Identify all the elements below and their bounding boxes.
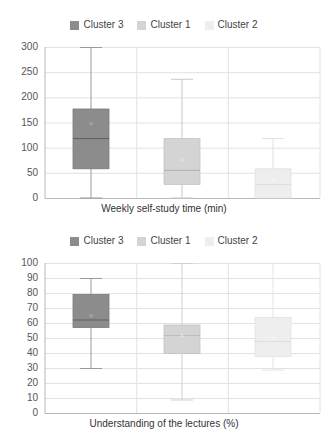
- svg-text:×: ×: [89, 119, 94, 128]
- svg-text:×: ×: [271, 175, 276, 184]
- x-axis-title-bottom: Understanding of the lectures (%): [0, 418, 328, 429]
- svg-text:×: ×: [180, 331, 185, 340]
- boxplot-cluster-1-top: ×: [164, 79, 200, 198]
- boxplot-cluster-1-bottom: ×: [164, 264, 200, 401]
- x-axis-title-top: Weekly self-study time (min): [0, 203, 328, 214]
- plot-area-top: × × ×: [0, 0, 328, 219]
- plot-area-bottom: × × ×: [0, 219, 328, 438]
- chart-weekly-self-study-time: Cluster 3 Cluster 1 Cluster 2 300 250 20…: [0, 0, 328, 219]
- boxplot-cluster-2-top: ×: [255, 139, 291, 198]
- svg-text:×: ×: [271, 333, 276, 342]
- chart-understanding-of-lectures: Cluster 3 Cluster 1 Cluster 2 100 90 80 …: [0, 219, 328, 438]
- boxplot-cluster-2-bottom: ×: [255, 264, 291, 371]
- boxplot-cluster-3-top: ×: [73, 48, 109, 199]
- boxplot-cluster-3-bottom: ×: [73, 279, 109, 369]
- svg-text:×: ×: [89, 311, 94, 320]
- svg-text:×: ×: [180, 155, 185, 164]
